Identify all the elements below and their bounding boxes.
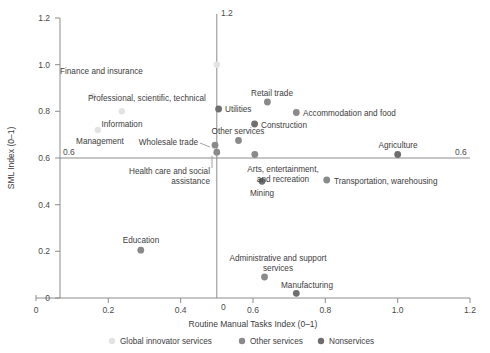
- data-point-agriculture[interactable]: [394, 151, 401, 158]
- point-labels: Finance and insurance Professional, scie…: [60, 67, 438, 290]
- data-point-transportation-warehousing[interactable]: [323, 177, 330, 184]
- y-tick-label: 0.4: [38, 200, 50, 210]
- x-axis-tick-labels: 0 0.2 0.4 0.6 0.8 1.0 1.2: [34, 305, 477, 315]
- legend-label-nonservices: Nonservices: [329, 337, 374, 346]
- point-label-health-care-line2: assistance: [171, 177, 210, 186]
- data-point-accommodation-and-food[interactable]: [293, 109, 300, 116]
- y-tick-label: 0.2: [38, 246, 50, 256]
- data-point-finance-and-insurance[interactable]: [214, 61, 220, 67]
- data-point-retail-trade[interactable]: [264, 99, 271, 106]
- y-tick-label: 1.0: [38, 60, 50, 70]
- x-tick-label: 0.2: [102, 305, 114, 315]
- y-tick-label: 0.6: [38, 153, 50, 163]
- y-tick-label: 0.8: [38, 106, 50, 116]
- vertical-reference-top-label: 1.2: [221, 8, 233, 18]
- point-label-mining: Mining: [250, 189, 275, 198]
- point-label-utilities: Utilities: [225, 105, 251, 114]
- chart-canvas: 1.2 1.0 0.8 0.6 0.4 0.2 0 0 0.2 0.4 0.6 …: [0, 0, 490, 353]
- data-point-manufacturing[interactable]: [293, 290, 300, 297]
- leader-line-wholesale-trade: [200, 143, 210, 147]
- x-tick-label: 1.0: [392, 305, 404, 315]
- y-axis-title: SML Index (0–1): [6, 127, 16, 190]
- point-label-other-services: Other services: [212, 127, 265, 136]
- y-tick-label: 1.2: [38, 13, 50, 23]
- vertical-reference-bottom-label: 0: [221, 302, 226, 312]
- point-label-construction: Construction: [261, 121, 307, 130]
- point-label-arts-line2: and recreation: [257, 175, 310, 184]
- point-label-retail-trade: Retail trade: [251, 89, 293, 98]
- x-tick-label: 0.6: [247, 305, 259, 315]
- point-label-agriculture: Agriculture: [378, 141, 418, 150]
- data-point-utilities[interactable]: [215, 106, 222, 113]
- point-label-wholesale-trade: Wholesale trade: [139, 138, 199, 147]
- horizontal-reference-right-label: 0.6: [455, 147, 467, 157]
- legend-marker-other-services[interactable]: [239, 338, 245, 344]
- x-tick-label: 0.4: [175, 305, 187, 315]
- point-label-education: Education: [123, 236, 160, 245]
- y-tick-label: 0: [45, 293, 50, 303]
- point-label-professional: Professional, scientific, technical: [88, 94, 206, 103]
- y-axis-tick-labels: 1.2 1.0 0.8 0.6 0.4 0.2 0: [38, 13, 50, 303]
- data-point-management[interactable]: [95, 127, 101, 133]
- x-axis-title: Routine Manual Tasks Index (0–1): [189, 319, 318, 329]
- point-label-manufacturing: Manufacturing: [281, 281, 333, 290]
- x-axis-ticks: [36, 295, 470, 303]
- y-axis-ticks: [55, 18, 60, 298]
- horizontal-reference-left-label: 0.6: [63, 147, 75, 157]
- x-tick-label: 1.2: [464, 305, 476, 315]
- legend-label-global-innovator-services: Global innovator services: [120, 337, 212, 346]
- x-tick-label: 0.8: [319, 305, 331, 315]
- data-point-arts-entertainment-and-recreation[interactable]: [251, 151, 258, 158]
- data-point-other-services[interactable]: [235, 137, 242, 144]
- data-point-education[interactable]: [137, 247, 144, 254]
- data-point-wholesale-trade[interactable]: [212, 142, 219, 149]
- legend-marker-global-innovator-services[interactable]: [109, 338, 115, 344]
- point-label-information: Information: [102, 120, 143, 129]
- point-label-administrative-line2: services: [263, 264, 293, 273]
- legend-marker-nonservices[interactable]: [318, 338, 324, 344]
- point-label-administrative-line1: Administrative and support: [230, 254, 328, 263]
- point-label-accommodation: Accommodation and food: [303, 109, 396, 118]
- chart-legend: Global innovator services Other services…: [109, 337, 374, 346]
- point-label-finance-and-insurance: Finance and insurance: [60, 67, 143, 76]
- legend-label-other-services: Other services: [250, 337, 303, 346]
- data-point-information[interactable]: [119, 108, 125, 114]
- data-point-administrative-and-support-services[interactable]: [261, 274, 268, 281]
- point-label-health-care-line1: Health care and social: [129, 167, 210, 176]
- x-tick-label: 0: [34, 305, 39, 315]
- scatter-chart: 1.2 1.0 0.8 0.6 0.4 0.2 0 0 0.2 0.4 0.6 …: [0, 0, 490, 353]
- data-point-health-care-and-social-assistance[interactable]: [213, 149, 220, 156]
- point-label-transportation: Transportation, warehousing: [334, 177, 438, 186]
- point-label-arts-line1: Arts, entertainment,: [247, 165, 318, 174]
- point-label-management: Management: [76, 137, 125, 146]
